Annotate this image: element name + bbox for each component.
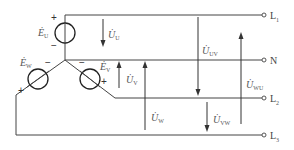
line-voltages: U̇UV U̇VW U̇WU — [196, 17, 264, 132]
label-l2: L2 — [270, 93, 279, 106]
wires — [16, 15, 262, 135]
label-uv: U̇V — [126, 74, 138, 86]
label-uw: U̇W — [151, 112, 164, 124]
source-ev: − + ĖV — [79, 57, 111, 89]
terminals: L1 N L2 L3 — [262, 10, 279, 143]
label-ev: ĖV — [99, 61, 111, 73]
wire-l2 — [65, 60, 262, 98]
label-uvw: U̇VW — [213, 114, 231, 126]
terminal-l1[interactable] — [262, 13, 266, 17]
label-l3: L3 — [270, 130, 279, 143]
minus-sign: − — [79, 57, 85, 68]
label-uuv: U̇UV — [202, 45, 219, 57]
wire-n — [65, 43, 262, 60]
terminal-l2[interactable] — [262, 96, 266, 100]
label-uwu: U̇WU — [246, 79, 264, 91]
label-l1: L1 — [270, 10, 279, 23]
terminal-l3[interactable] — [262, 133, 266, 137]
plus-sign: + — [18, 85, 24, 96]
label-n: N — [270, 55, 277, 66]
label-uu: U̇U — [108, 29, 120, 41]
label-eu: ĖU — [37, 27, 49, 39]
wire-l1 — [65, 15, 262, 23]
three-phase-circuit-diagram: L1 N L2 L3 + − ĖU − + ĖW − + ĖV U̇U U̇V — [0, 0, 294, 150]
source-ew: − + ĖW — [18, 57, 51, 96]
plus-sign: + — [51, 12, 57, 23]
label-ew: ĖW — [19, 57, 32, 69]
phase-voltages: U̇U U̇V U̇W — [101, 19, 165, 130]
minus-sign: − — [45, 57, 51, 68]
plus-sign: + — [101, 76, 107, 87]
terminal-n[interactable] — [262, 58, 266, 62]
source-eu: + − ĖU — [37, 12, 75, 51]
minus-sign: − — [51, 40, 57, 51]
